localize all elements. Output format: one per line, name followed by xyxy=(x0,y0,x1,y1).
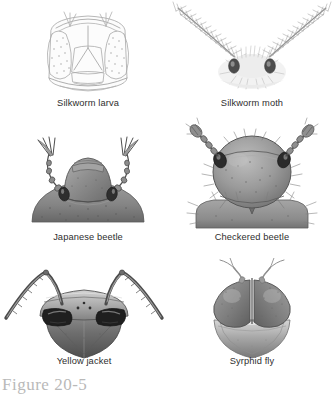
syrphid-fly-illustration xyxy=(168,258,336,362)
panel-label-silkworm-larva: Silkworm larva xyxy=(8,98,168,108)
panel-silkworm-moth: Silkworm moth xyxy=(168,0,336,116)
japanese-beetle-illustration xyxy=(8,122,168,232)
figure-number-caption: Figure 20-5 xyxy=(2,375,87,394)
checkered-beetle-illustration xyxy=(168,116,336,234)
yellow-jacket-illustration xyxy=(0,254,168,360)
panel-label-yellow-jacket: Yellow jacket xyxy=(0,356,168,366)
panel-checkered-beetle: Checkered beetle xyxy=(168,116,336,248)
panel-silkworm-larva: Silkworm larva xyxy=(8,4,168,116)
panel-label-checkered-beetle: Checkered beetle xyxy=(168,232,336,242)
panel-label-syrphid-fly: Syrphid fly xyxy=(168,356,336,366)
figure-plate: Silkworm larva xyxy=(0,0,336,394)
silkworm-larva-illustration xyxy=(8,4,168,100)
silkworm-moth-illustration xyxy=(168,0,336,100)
panel-syrphid-fly: Syrphid fly xyxy=(168,258,336,374)
panel-label-silkworm-moth: Silkworm moth xyxy=(168,98,336,108)
panel-japanese-beetle: Japanese beetle xyxy=(8,122,168,248)
panel-yellow-jacket: Yellow jacket xyxy=(0,254,168,374)
panel-label-japanese-beetle: Japanese beetle xyxy=(8,232,168,242)
